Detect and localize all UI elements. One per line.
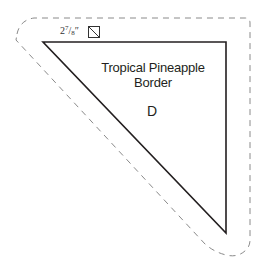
piece-letter: D	[140, 103, 164, 119]
pattern-title-line1: Tropical Pineapple	[92, 60, 214, 75]
cut-size-label: 27/8″	[60, 25, 79, 37]
cut-size-unit: ″	[75, 25, 79, 36]
pattern-drawing	[0, 0, 266, 270]
half-square-triangle-cut-icon	[89, 27, 100, 38]
pattern-title-line2: Border	[92, 75, 214, 90]
pattern-template: 27/8″ Tropical Pineapple Border D	[0, 0, 266, 270]
